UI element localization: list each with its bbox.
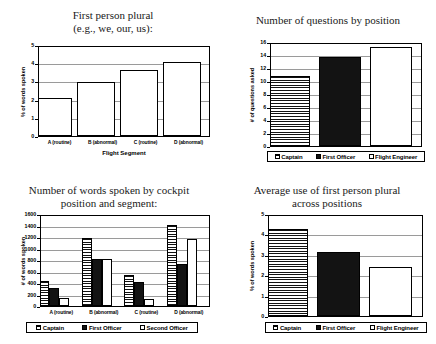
y-tick-mark: [37, 307, 40, 308]
panel-questions-by-position: Number of questions by position # of que…: [218, 0, 436, 172]
chart-legend: CaptainFirst OfficerFlight Engineer: [267, 151, 425, 162]
panel-first-person-plural-by-segment: First person plural (e.g., we, our, us):…: [0, 0, 218, 172]
y-tick-label: 0: [14, 134, 34, 139]
y-tick-label: 800: [16, 258, 36, 263]
grid-line: [269, 215, 422, 216]
legend-item-label: Captain: [43, 325, 64, 331]
legend-item-label: Flight Engineer: [375, 154, 417, 160]
y-tick-label: 5: [244, 212, 264, 217]
bar: [177, 264, 187, 306]
legend-swatch-black-icon: [316, 154, 321, 159]
panel-avg-first-person-plural-by-position: Average use of first person plural acros…: [218, 172, 436, 344]
chart-area: # of questions asked0246810121416Captain…: [218, 0, 436, 172]
grid-line: [41, 215, 209, 216]
bar: [82, 238, 92, 306]
legend-item-label: First Officer: [322, 325, 355, 331]
y-tick-label: 5: [14, 43, 34, 48]
x-tick-label: D (abnormal): [155, 310, 223, 315]
y-tick-label: 0: [244, 314, 264, 319]
legend-item[interactable]: First Officer: [81, 325, 122, 331]
y-tick-label: 2: [14, 98, 34, 103]
bar: [144, 299, 154, 306]
legend-swatch-striped-icon: [36, 325, 41, 330]
legend-swatch-white-icon: [370, 325, 375, 330]
legend-item-label: First Officer: [322, 154, 355, 160]
legend-swatch-white-icon: [140, 325, 145, 330]
y-tick-mark: [267, 147, 270, 148]
legend-item[interactable]: Flight Engineer: [368, 154, 419, 160]
x-tick-label: D (abnormal): [155, 140, 223, 145]
bar: [163, 62, 201, 136]
legend-item-label: Flight Engineer: [376, 325, 418, 331]
legend-item[interactable]: Second Officer: [139, 325, 189, 331]
chart-area: % of words spoken012345CaptainFirst Offi…: [218, 172, 436, 344]
y-axis-label: % of words spoken: [19, 46, 25, 137]
bar: [40, 281, 49, 306]
y-tick-label: 1000: [16, 247, 36, 252]
y-tick-label: 12: [246, 66, 266, 71]
y-tick-label: 2: [244, 274, 264, 279]
legend-item[interactable]: First Officer: [315, 325, 356, 331]
bar: [120, 70, 158, 136]
legend-item[interactable]: Captain: [35, 325, 65, 331]
x-axis-label: Flight Segment: [38, 150, 210, 156]
legend-swatch-black-icon: [82, 325, 87, 330]
y-tick-label: 4: [14, 62, 34, 67]
chart-legend: CaptainFirst OfficerSecond Officer: [26, 322, 198, 333]
y-tick-label: 10: [246, 79, 266, 84]
y-tick-label: 4: [246, 118, 266, 123]
grid-line: [41, 250, 209, 251]
legend-swatch-white-icon: [369, 154, 374, 159]
y-tick-mark: [35, 137, 38, 138]
plot-area: [40, 215, 210, 307]
bar: [319, 57, 361, 146]
figure-sheet: First person plural (e.g., we, our, us):…: [0, 0, 436, 344]
y-tick-label: 0: [246, 144, 266, 149]
y-tick-label: 2: [246, 131, 266, 136]
bar: [187, 239, 197, 306]
legend-item[interactable]: Flight Engineer: [369, 325, 420, 331]
bar: [270, 76, 310, 146]
y-tick-label: 1600: [16, 212, 36, 217]
y-tick-label: 400: [16, 281, 36, 286]
chart-legend: CaptainFirst OfficerFlight Engineer: [265, 322, 427, 333]
bar: [92, 259, 102, 306]
y-tick-label: 6: [246, 105, 266, 110]
bar: [369, 267, 412, 316]
bar: [268, 229, 308, 316]
legend-item[interactable]: Captain: [272, 325, 302, 331]
y-tick-label: 200: [16, 293, 36, 298]
y-tick-label: 3: [244, 253, 264, 258]
bar: [134, 282, 144, 306]
panel-words-by-position-and-segment: Number of words spoken by cockpit positi…: [0, 172, 218, 344]
legend-swatch-striped-icon: [275, 154, 280, 159]
bar: [59, 298, 69, 306]
legend-item[interactable]: Captain: [274, 154, 304, 160]
grid-line: [41, 238, 209, 239]
legend-item-label: Second Officer: [147, 325, 188, 331]
legend-item-label: Captain: [281, 154, 302, 160]
y-tick-label: 0: [16, 304, 36, 309]
y-tick-label: 1200: [16, 235, 36, 240]
bar: [317, 252, 360, 316]
y-tick-mark: [265, 317, 268, 318]
y-tick-label: 4: [244, 233, 264, 238]
grid-line: [41, 227, 209, 228]
legend-item-label: Captain: [280, 325, 301, 331]
bar: [370, 47, 412, 146]
plot-area: [268, 215, 423, 317]
y-tick-label: 3: [14, 80, 34, 85]
legend-swatch-black-icon: [316, 325, 321, 330]
bar: [102, 259, 112, 306]
legend-item[interactable]: First Officer: [315, 154, 356, 160]
chart-area: # of words spoken02004006008001000120014…: [0, 172, 218, 344]
grid-line: [41, 261, 209, 262]
y-tick-label: 14: [246, 53, 266, 58]
legend-swatch-striped-icon: [273, 325, 278, 330]
y-axis-label: % of words spoken: [249, 215, 255, 317]
y-tick-label: 16: [246, 40, 266, 45]
bar: [167, 225, 177, 306]
grid-line: [271, 43, 421, 44]
bar: [124, 275, 134, 306]
legend-item-label: First Officer: [89, 325, 122, 331]
